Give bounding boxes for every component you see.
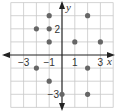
data-point	[47, 26, 52, 31]
x-tick-label: 1	[72, 57, 78, 68]
y-tick-label: 2	[54, 24, 60, 35]
data-point	[47, 39, 52, 44]
x-tick-label: −1	[43, 57, 55, 68]
data-point	[47, 13, 52, 18]
coordinate-plane: −3−1132−3 x y	[0, 0, 117, 112]
data-point	[85, 92, 90, 97]
x-axis-left-arrow-icon	[2, 52, 10, 58]
tick-labels: −3−1132−3	[18, 24, 104, 101]
x-axis-label: x	[106, 55, 112, 67]
data-point	[59, 92, 64, 97]
data-point	[47, 79, 52, 84]
data-point	[34, 66, 39, 71]
data-point	[72, 39, 77, 44]
data-point	[85, 13, 90, 18]
data-point	[34, 26, 39, 31]
y-tick-label: −3	[48, 89, 60, 100]
x-tick-label: −3	[18, 57, 30, 68]
data-point	[85, 66, 90, 71]
data-point	[98, 39, 103, 44]
x-tick-label: 3	[98, 57, 104, 68]
y-axis-label: y	[65, 1, 71, 13]
